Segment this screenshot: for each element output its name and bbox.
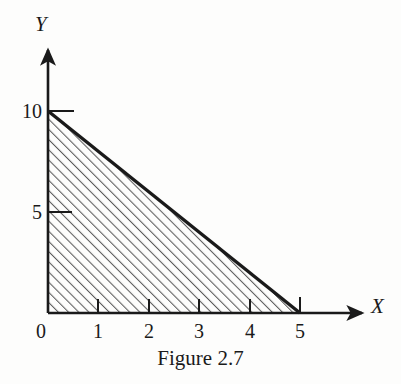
y-axis-label: Y	[35, 14, 47, 35]
figure-container: Y X 10 5 0 1 2 3 4 5 Figure 2.7	[0, 0, 401, 384]
x-tick-label-5: 5	[290, 321, 310, 341]
x-tick-label-4: 4	[240, 321, 260, 341]
y-tick-label-5: 5	[12, 202, 42, 222]
x-axis-label: X	[371, 296, 384, 317]
y-tick-label-10: 10	[12, 101, 42, 121]
origin-tick-label: 0	[31, 321, 51, 341]
figure-caption: Figure 2.7	[0, 348, 401, 369]
x-tick-label-1: 1	[88, 321, 108, 341]
x-tick-label-2: 2	[139, 321, 159, 341]
x-tick-label-3: 3	[189, 321, 209, 341]
